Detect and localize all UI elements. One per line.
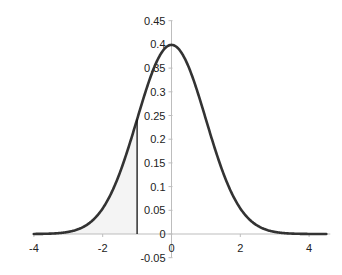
- y-tick-label: 0.1: [150, 181, 165, 193]
- y-tick-label: 0.15: [144, 157, 165, 169]
- axes: [32, 21, 330, 258]
- y-tick-label: 0.45: [144, 15, 165, 27]
- x-axis-tick-labels: -4-2024: [29, 242, 312, 254]
- y-tick-label: 0.2: [150, 133, 165, 145]
- x-tick-label: -4: [29, 242, 39, 254]
- y-tick-label: 0.05: [144, 204, 165, 216]
- y-tick-label: 0.25: [144, 110, 165, 122]
- x-tick-label: 2: [237, 242, 243, 254]
- y-tick-label: 0: [159, 228, 165, 240]
- x-tick-label: 4: [306, 242, 312, 254]
- normal-distribution-chart: -4-2024 -0.0500.050.10.150.20.250.30.350…: [0, 0, 342, 275]
- shaded-tail-area: [34, 119, 137, 234]
- pdf-curve-line: [34, 45, 326, 234]
- x-tick-label: -2: [98, 242, 108, 254]
- y-tick-label: -0.05: [140, 252, 165, 264]
- shaded-region: [34, 119, 137, 234]
- pdf-curve: [34, 45, 326, 234]
- y-tick-label: 0.3: [150, 86, 165, 98]
- x-tick-label: 0: [168, 242, 174, 254]
